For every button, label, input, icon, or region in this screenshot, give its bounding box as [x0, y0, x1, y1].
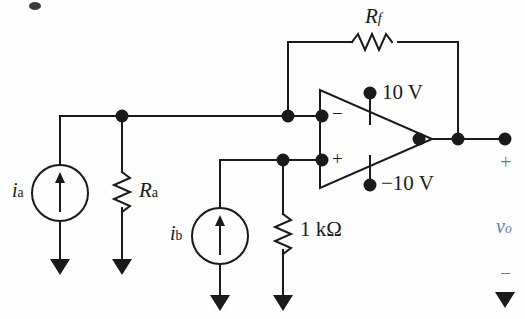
ground-arrow-ra — [112, 259, 132, 275]
node-dot-supply-negative — [364, 179, 377, 192]
circuit-diagram: ia Ra ib 1 kΩ Rf − + 10 V −10 V + vo − — [0, 0, 525, 319]
node-dot-noninverting-input — [316, 154, 329, 167]
resistor-ra-zigzag — [114, 172, 130, 212]
node-dot-output-terminal — [499, 133, 512, 146]
supply-negative-label: −10 V — [381, 173, 434, 194]
ground-arrow-r1k — [273, 295, 293, 311]
source-b-label: ib — [170, 223, 182, 243]
output-minus-sign: − — [500, 263, 511, 283]
schematic-svg — [0, 0, 525, 319]
node-dot-inverting-left — [116, 110, 129, 123]
resistor-rf-zigzag — [352, 34, 392, 50]
output-voltage-label: vo — [496, 216, 512, 236]
ground-arrow-source-a — [50, 259, 70, 275]
node-dot-output-junction — [452, 133, 465, 146]
current-source-a-arrowhead — [55, 172, 65, 183]
current-source-b-arrowhead — [215, 215, 225, 226]
node-dot-opamp-output — [413, 133, 426, 146]
opamp-noninverting-sign: + — [332, 149, 343, 168]
node-dot-noninverting-junction — [277, 154, 290, 167]
scan-artifact — [29, 2, 41, 10]
node-dot-inverting-input — [316, 110, 329, 123]
node-dot-feedback-junction — [282, 110, 295, 123]
resistor-1k-zigzag — [275, 214, 291, 254]
resistor-1k-label: 1 kΩ — [300, 219, 342, 240]
resistor-f-label: Rf — [365, 6, 382, 27]
output-plus-sign: + — [500, 152, 511, 172]
opamp-inverting-sign: − — [332, 104, 343, 123]
ground-arrow-source-b — [210, 295, 230, 311]
ground-arrow-output — [495, 292, 515, 308]
supply-positive-label: 10 V — [382, 82, 423, 103]
source-a-label: ia — [12, 180, 24, 200]
resistor-a-label: Ra — [139, 180, 158, 201]
node-dot-supply-positive — [364, 87, 377, 100]
